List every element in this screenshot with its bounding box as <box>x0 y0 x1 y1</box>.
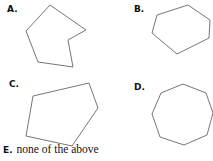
choice-d-label[interactable]: D. <box>134 83 145 92</box>
shapes-svg <box>0 0 213 161</box>
choice-b-label[interactable]: B. <box>134 5 144 14</box>
shape-a-polygon[interactable] <box>26 5 86 67</box>
choice-a-label[interactable]: A. <box>7 5 18 14</box>
shape-c-polygon[interactable] <box>26 83 98 146</box>
choice-e[interactable]: E.none of the above <box>3 144 99 156</box>
shape-b-polygon[interactable] <box>152 5 210 54</box>
multiple-choice-figure: A. B. C. D. E.none of the above <box>0 0 213 161</box>
choice-e-text: none of the above <box>17 143 99 155</box>
shape-d-polygon[interactable] <box>152 84 213 145</box>
choice-c-label[interactable]: C. <box>9 80 19 89</box>
choice-e-label: E. <box>3 145 13 155</box>
